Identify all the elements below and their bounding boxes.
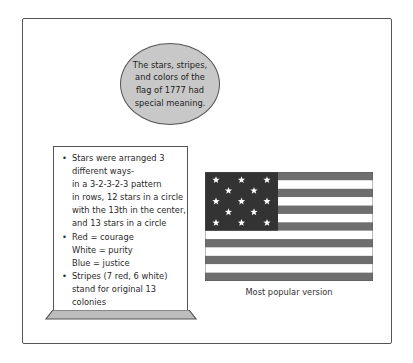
bullet-item-stripes: Stripes (7 red, 6 white) stand for origi…	[62, 270, 190, 309]
notecard-bullet-list: Stars were arranged 3 different ways- in…	[62, 152, 190, 309]
flag-1777-illustration	[205, 172, 373, 281]
bullet-line: with the 13th in the center,	[72, 204, 190, 217]
bullet-line: Blue = justice	[72, 257, 190, 270]
bullet-line: Stripes (7 red, 6 white)	[72, 270, 190, 283]
callout-line: and colors of the	[127, 71, 213, 84]
bullet-item-stars: Stars were arranged 3 different ways- in…	[62, 152, 190, 231]
bullet-line: White = purity	[72, 244, 190, 257]
bullet-line: stand for original 13	[72, 283, 190, 296]
bullet-line: colonies	[72, 296, 190, 309]
callout-text: The stars, stripes, and colors of the fl…	[127, 59, 213, 109]
bullet-item-colors: Red = courage White = purity Blue = just…	[62, 231, 190, 270]
bullet-line: in rows, 12 stars in a circle	[72, 191, 190, 204]
callout-oval: The stars, stripes, and colors of the fl…	[120, 43, 220, 125]
notecard-base	[45, 310, 197, 320]
callout-line: flag of 1777 had	[127, 84, 213, 97]
callout-line: The stars, stripes,	[127, 59, 213, 72]
bullet-line: Stars were arranged 3	[72, 152, 190, 165]
bullet-line: in a 3-2-3-2-3 pattern	[72, 178, 190, 191]
bullet-line: different ways-	[72, 165, 190, 178]
bullet-line: and 13 stars in a circle	[72, 217, 190, 230]
callout-line: special meaning.	[127, 97, 213, 110]
bullet-line: Red = courage	[72, 231, 190, 244]
flag-caption: Most popular version	[205, 287, 373, 297]
